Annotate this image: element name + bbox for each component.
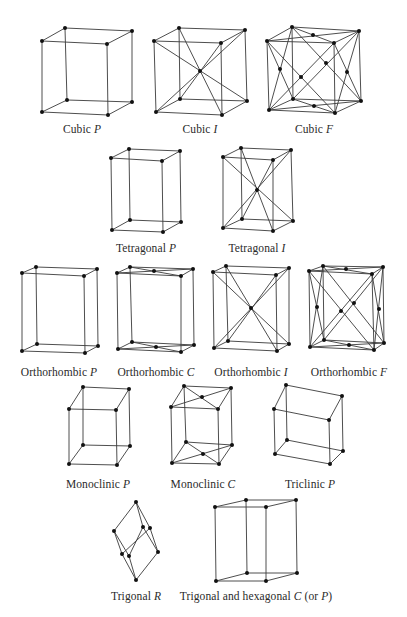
- lattice-system-name: Tetragonal: [116, 242, 169, 254]
- lattice-point: [184, 440, 188, 444]
- lattice-system-name: Cubic: [295, 123, 326, 135]
- cell-edge: [245, 30, 247, 101]
- lattice-point: [141, 525, 145, 529]
- lattice-point: [20, 271, 24, 275]
- lattice-point: [192, 343, 196, 347]
- lattice-system-name: Monoclinic: [66, 478, 123, 490]
- cell-edge: [130, 267, 132, 342]
- lattice-point: [272, 407, 276, 411]
- lattice-centering-symbol: P: [90, 366, 97, 378]
- lattice-point: [154, 110, 158, 114]
- cell-edge: [180, 99, 247, 101]
- cell-edge: [184, 386, 186, 442]
- lattice-point: [341, 449, 345, 453]
- lattice-point: [244, 498, 248, 502]
- lattice-cubic-p: [40, 26, 134, 117]
- lattice-point: [83, 351, 87, 355]
- cell-edge: [214, 341, 228, 348]
- cell-edge: [223, 148, 241, 157]
- centering-point: [278, 67, 282, 71]
- cell-edge: [213, 272, 214, 348]
- cell-edge: [129, 149, 180, 151]
- lattice-centering-symbol: P: [94, 123, 101, 135]
- cell-edge: [184, 386, 231, 388]
- lattice-point: [308, 345, 312, 349]
- centering-point: [198, 69, 202, 73]
- lattice-point: [382, 341, 386, 345]
- lattice-point: [67, 462, 71, 466]
- lattice-point: [287, 266, 291, 270]
- lattice-centering-symbol: P: [169, 242, 176, 254]
- lattice-cubic-f: [265, 25, 363, 115]
- lattice-point: [34, 265, 38, 269]
- lattice-point: [110, 228, 114, 232]
- lattice-system-name: Orthorhombic: [21, 366, 90, 378]
- cell-edge: [267, 41, 334, 43]
- lattice-system-name: Trigonal and hexagonal: [180, 590, 294, 602]
- lattice-system-name: Orthorhombic: [214, 366, 283, 378]
- cell-edge: [156, 112, 222, 115]
- cell-edge: [274, 409, 275, 454]
- lattice-centering-symbol: I: [214, 123, 218, 135]
- cell-edge: [107, 31, 132, 44]
- cell-edge: [22, 273, 84, 276]
- lattice-point: [357, 29, 361, 33]
- cell-edge: [246, 500, 247, 573]
- caption-cubic-f: Cubic F: [295, 123, 333, 135]
- lattice-point: [134, 578, 138, 582]
- cell-edge: [65, 28, 67, 100]
- lattice-point: [264, 579, 268, 583]
- cell-edge: [273, 221, 293, 231]
- cell-edge: [136, 502, 143, 527]
- cell-edge: [69, 387, 83, 409]
- cell-edge: [171, 407, 172, 463]
- cell-edge: [214, 348, 277, 351]
- lattice-point: [128, 265, 132, 269]
- lattice-point: [81, 443, 85, 447]
- lattice-point: [291, 219, 295, 223]
- cell-edge: [330, 451, 343, 464]
- cell-edge: [241, 148, 291, 150]
- cell-edge: [329, 420, 330, 464]
- cell-edge: [108, 102, 132, 115]
- lattice-point: [243, 28, 247, 32]
- caption-cubic-i: Cubic I: [183, 123, 218, 135]
- lattice-point: [307, 269, 311, 273]
- lattice-system-name: Monoclinic: [171, 478, 228, 490]
- lattice-point: [127, 387, 131, 391]
- cell-edge: [266, 573, 297, 581]
- lattice-centering-symbol: F: [380, 366, 387, 378]
- centering-point: [152, 269, 156, 273]
- lattice-point: [191, 267, 195, 271]
- centering-point: [344, 267, 348, 271]
- cell-edge: [274, 409, 329, 420]
- lattice-orthorhombic-i: [211, 264, 291, 353]
- lattice-point: [178, 97, 182, 101]
- lattice-point: [287, 342, 291, 346]
- cell-edge: [97, 269, 98, 346]
- cell-edge: [22, 351, 85, 353]
- cell-edge: [117, 446, 130, 465]
- cell-edge: [293, 99, 361, 101]
- cell-edge: [213, 272, 276, 275]
- lattice-point: [82, 274, 86, 278]
- caption-orthorhombic-p: Orthorhombic P: [21, 366, 97, 378]
- lattice-point: [20, 349, 24, 353]
- lattice-point: [289, 148, 293, 152]
- cell-edge: [329, 396, 342, 420]
- lattice-point: [35, 342, 39, 346]
- caption-monoclinic-c: Monoclinic C: [171, 478, 236, 490]
- lattice-point: [271, 229, 275, 233]
- caption-trigonal-r: Trigonal R: [111, 590, 161, 602]
- lattice-centering-symbol: F: [326, 123, 333, 135]
- cell-edge: [162, 151, 180, 161]
- cell-edge: [83, 445, 130, 446]
- cell-edge: [69, 464, 117, 465]
- lattice-system-name: Tetragonal: [229, 242, 282, 254]
- cell-edge: [154, 41, 221, 43]
- cell-edge: [36, 267, 97, 269]
- lattice-point: [178, 149, 182, 153]
- centering-point: [347, 343, 351, 347]
- cell-edge: [287, 440, 343, 451]
- lattice-system-name: Trigonal: [111, 590, 154, 602]
